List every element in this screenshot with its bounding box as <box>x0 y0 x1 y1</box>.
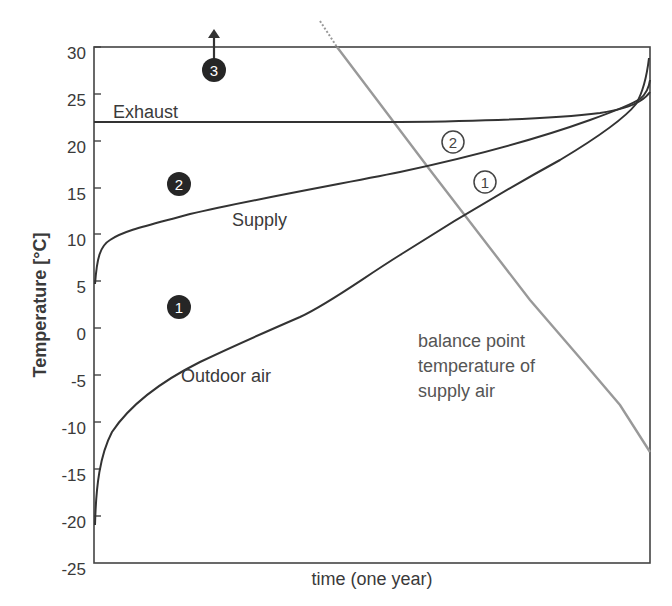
y-tick-m25: -25 <box>61 560 86 579</box>
supply-label: Supply <box>232 210 287 230</box>
svg-text:2: 2 <box>175 176 183 193</box>
region-marker-1: 1 <box>474 171 496 193</box>
y-tick-15: 15 <box>67 185 86 204</box>
svg-text:2: 2 <box>449 134 457 151</box>
y-tick-30: 30 <box>67 44 86 63</box>
x-axis-label: time (one year) <box>311 569 432 589</box>
marker-3: 3 <box>202 29 226 82</box>
balance-label-line3: supply air <box>418 381 495 401</box>
chart: 30 25 20 15 10 5 0 -5 -10 -15 -20 -25 Te… <box>0 0 672 606</box>
y-tick-25: 25 <box>67 91 86 110</box>
y-tick-m5: -5 <box>71 372 86 391</box>
balance-line-dotted <box>320 21 337 47</box>
balance-label-line1: balance point <box>418 331 525 351</box>
svg-text:1: 1 <box>175 299 183 316</box>
marker-1: 1 <box>167 295 191 319</box>
balance-label-line2: temperature of <box>418 356 536 376</box>
y-tick-m20: -20 <box>61 513 86 532</box>
y-tick-0: 0 <box>77 325 86 344</box>
y-tick-labels: 30 25 20 15 10 5 0 -5 -10 -15 -20 -25 <box>61 44 86 579</box>
y-tick-m15: -15 <box>61 466 86 485</box>
y-tick-m10: -10 <box>61 419 86 438</box>
y-tick-5: 5 <box>77 278 86 297</box>
arrow-head-icon <box>208 29 220 38</box>
exhaust-label: Exhaust <box>113 102 178 122</box>
outdoor-air-label: Outdoor air <box>181 366 271 386</box>
y-tick-10: 10 <box>67 231 86 250</box>
svg-text:1: 1 <box>481 174 489 191</box>
svg-text:3: 3 <box>210 62 218 79</box>
region-marker-2: 2 <box>442 131 464 153</box>
y-axis-label: Temperature [°C] <box>30 233 50 378</box>
y-tick-20: 20 <box>67 138 86 157</box>
marker-2: 2 <box>167 172 191 196</box>
